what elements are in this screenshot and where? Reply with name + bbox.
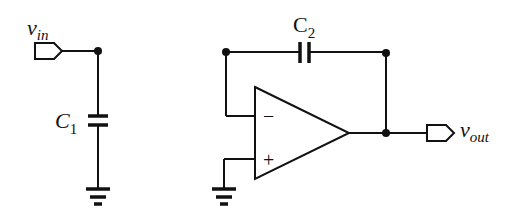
ground-icon-opamp — [212, 189, 236, 204]
vin-input-port — [35, 43, 62, 59]
opamp-plus-sign: + — [263, 149, 274, 171]
vout-output-port — [427, 125, 454, 141]
opamp-minus-sign: − — [263, 105, 274, 127]
vin-label: vin — [27, 15, 48, 43]
output-node-dot — [382, 129, 390, 137]
ground-icon-c1 — [86, 189, 110, 204]
c1-label: C1 — [55, 108, 77, 137]
capacitor-c1 — [88, 116, 108, 125]
capacitor-c2 — [300, 42, 309, 63]
vout-label: vout — [460, 117, 490, 145]
c2-label: C2 — [293, 12, 315, 41]
circuit-diagram: vin C1 C2 − + vout — [0, 0, 519, 220]
